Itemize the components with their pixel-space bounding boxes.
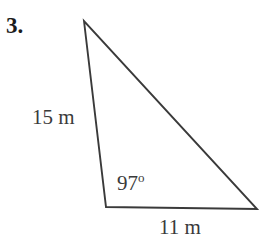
side-length-label-left: 15 m <box>32 107 75 128</box>
side-length-label-bottom: 11 m <box>159 217 201 238</box>
problem-number: 3. <box>6 14 23 37</box>
triangle-outline <box>84 21 257 209</box>
angle-measure-label: 97o <box>117 173 145 194</box>
angle-value: 97 <box>117 171 138 195</box>
degree-symbol-icon: o <box>138 170 145 185</box>
figure-container: 3. 15 m 97o 11 m <box>0 0 270 252</box>
